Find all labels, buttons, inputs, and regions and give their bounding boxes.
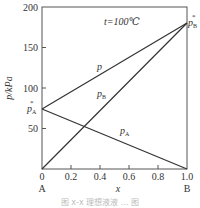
x-tick-0.4: 0.4 <box>94 171 107 182</box>
series-pB-label: pB <box>96 88 106 100</box>
pA-star-asterisk: * <box>30 99 34 107</box>
x-axis-label: x <box>115 183 121 194</box>
x-end-label-B: B <box>184 183 191 194</box>
y-tick-100: 100 <box>23 83 38 94</box>
y-tick-50: 50 <box>28 123 38 134</box>
x-tick-0: 0 <box>40 171 45 182</box>
x-tick-0.6: 0.6 <box>123 171 136 182</box>
y-tick-200: 200 <box>23 2 38 13</box>
chart-title: t=100℃ <box>104 16 140 27</box>
x-tick-1.0: 1.0 <box>181 171 194 182</box>
y-ticks <box>42 48 46 129</box>
series-pA-line <box>42 109 187 169</box>
plot-frame <box>42 7 187 169</box>
x-tick-0.8: 0.8 <box>152 171 165 182</box>
x-end-label-A: A <box>38 183 46 194</box>
series-p-label: p <box>96 61 102 72</box>
figure-caption: 图 x-x 理想液液 … 图 <box>61 197 140 207</box>
pressure-composition-chart: 200 150 100 50 p/kPa pA * pB * t=100℃ p … <box>0 0 200 208</box>
y-tick-150: 150 <box>23 42 38 53</box>
x-ticks <box>71 165 158 169</box>
y-axis-label: p/kPa <box>3 76 14 100</box>
x-tick-0.2: 0.2 <box>65 171 78 182</box>
pB-star-asterisk: * <box>192 13 196 21</box>
series-pA-label: pA <box>119 125 130 137</box>
